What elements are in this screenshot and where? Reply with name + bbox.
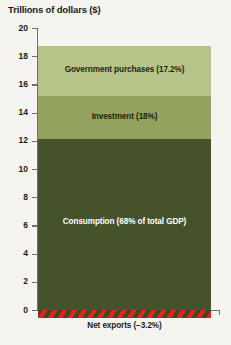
y-tick-label: 8 (2, 192, 28, 202)
net-exports-leader-tick (219, 310, 220, 315)
segment-label-consumption: Consumption (68% of total GDP) (38, 217, 211, 226)
y-tick-label: 20 (2, 23, 28, 33)
y-tick-label: 12 (2, 135, 28, 145)
y-tick-label: 0 (2, 305, 28, 315)
y-tick-label: 2 (2, 276, 28, 286)
segment-label-government-purchases: Government purchases (17.2%) (38, 65, 211, 74)
bar-segment-net-exports[interactable] (38, 310, 211, 318)
y-tick-label: 16 (2, 79, 28, 89)
segment-label-net-exports: Net exports (−3.2%) (38, 321, 211, 330)
y-tick-label: 14 (2, 107, 28, 117)
y-tick-label: 18 (2, 51, 28, 61)
y-tick-label: 4 (2, 248, 28, 258)
bar-segment-investment[interactable]: Investment (18%) (38, 96, 211, 140)
y-tick-label: 10 (2, 164, 28, 174)
bar-segment-consumption[interactable]: Consumption (68% of total GDP) (38, 139, 211, 310)
gdp-composition-chart: Trillions of dollars ($) 20 18 16 14 12 … (0, 0, 231, 345)
segment-label-investment: Investment (18%) (38, 112, 211, 121)
plot-area: 20 18 16 14 12 10 8 6 (0, 0, 231, 345)
bar-segment-government-purchases[interactable]: Government purchases (17.2%) (38, 46, 211, 96)
y-tick-label: 6 (2, 220, 28, 230)
